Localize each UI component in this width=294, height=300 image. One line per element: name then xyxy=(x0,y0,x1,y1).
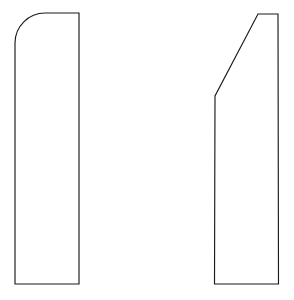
left-profile-shape xyxy=(15,13,79,284)
drawing-canvas xyxy=(0,0,294,300)
profile-drawing xyxy=(0,0,294,300)
